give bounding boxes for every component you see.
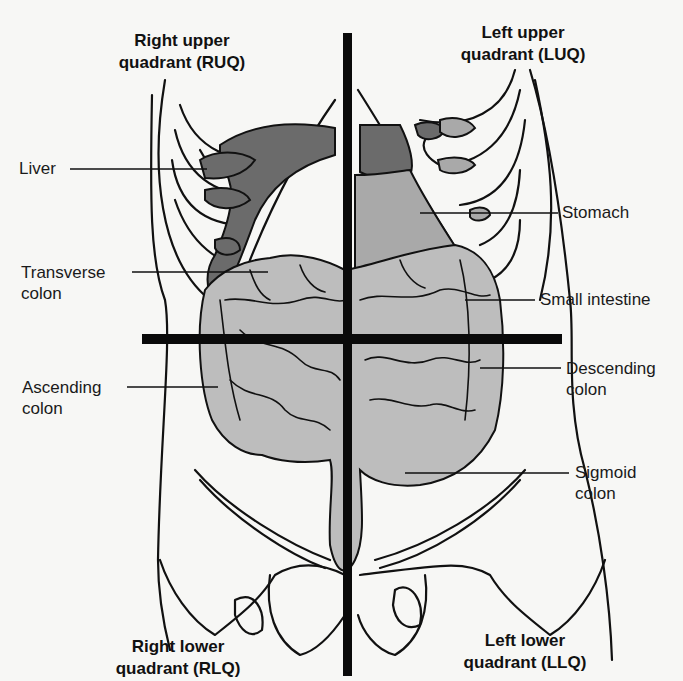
rlq-line2: quadrant (RLQ) xyxy=(88,658,268,680)
abdomen-illustration xyxy=(0,0,683,681)
luq-line2: quadrant (LUQ) xyxy=(433,44,613,66)
label-sigmoid-colon: Sigmoid colon xyxy=(575,462,636,504)
label-small-intestine: Small intestine xyxy=(540,289,651,310)
quadrant-label-luq: Left upper quadrant (LUQ) xyxy=(433,22,613,66)
quadrant-label-ruq: Right upper quadrant (RUQ) xyxy=(92,30,272,74)
inguinal-ligament-left-2 xyxy=(380,480,520,568)
quadrant-label-llq: Left lower quadrant (LLQ) xyxy=(435,630,615,674)
inguinal-ligament-right xyxy=(195,470,330,560)
rib-right-outer xyxy=(159,80,210,300)
label-ascending-colon: Ascending colon xyxy=(22,377,101,419)
ruq-line2: quadrant (RUQ) xyxy=(92,52,272,74)
label-stomach: Stomach xyxy=(562,202,629,223)
label-liver: Liver xyxy=(19,158,56,179)
vertical-midline xyxy=(343,33,352,676)
label-transverse-colon: Transverse colon xyxy=(21,262,105,304)
rib-left-5 xyxy=(490,220,520,280)
ruq-line1: Right upper xyxy=(92,30,272,52)
pelvis-left-pubis xyxy=(358,575,426,655)
rib-left-1 xyxy=(420,70,515,123)
horizontal-umbilical-line xyxy=(142,334,562,344)
quadrant-label-rlq: Right lower quadrant (RLQ) xyxy=(88,636,268,680)
pelvis-left-obturator xyxy=(393,587,421,627)
label-descending-colon: Descending colon xyxy=(566,358,656,400)
rib-left-4 xyxy=(480,170,520,245)
pelvis-right-ilium xyxy=(160,560,345,635)
rlq-line1: Right lower xyxy=(88,636,268,658)
rib-left-outer xyxy=(535,80,551,300)
pelvis-left-ilium xyxy=(360,560,605,635)
luq-line1: Left upper xyxy=(433,22,613,44)
pelvis-right-pubis xyxy=(269,575,345,655)
body-outline-right xyxy=(151,95,170,650)
llq-line2: quadrant (LLQ) xyxy=(435,652,615,674)
llq-line1: Left lower xyxy=(435,630,615,652)
